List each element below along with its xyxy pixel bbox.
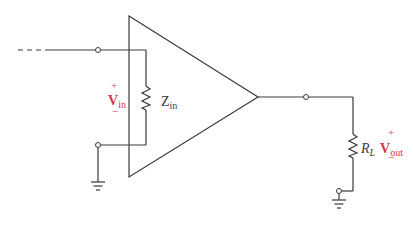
rl-resistor-icon bbox=[349, 134, 357, 158]
vout-plus-sign: + bbox=[388, 127, 394, 138]
zin-resistor-icon bbox=[142, 86, 150, 110]
ground-icon bbox=[332, 200, 346, 208]
vin-minus-sign: − bbox=[112, 106, 118, 117]
ground-icon bbox=[91, 182, 105, 190]
circuit-schematic bbox=[0, 0, 413, 225]
input-terminal-top bbox=[96, 48, 101, 53]
output-terminal-top bbox=[304, 95, 309, 100]
zin-label: Zin bbox=[161, 93, 177, 111]
circuit-diagram: + Vin − Zin RL + Vout − bbox=[0, 0, 413, 225]
input-terminal-bottom bbox=[96, 143, 101, 148]
rl-label: RL bbox=[361, 140, 375, 158]
vin-plus-sign: + bbox=[111, 80, 117, 91]
output-terminal-bottom bbox=[337, 189, 342, 194]
vout-minus-sign: − bbox=[388, 152, 394, 163]
